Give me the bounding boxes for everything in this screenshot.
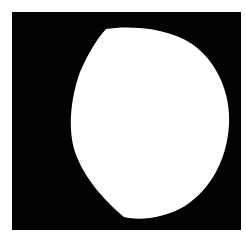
blob-path — [71, 28, 229, 219]
white-blob-shape — [0, 0, 246, 233]
